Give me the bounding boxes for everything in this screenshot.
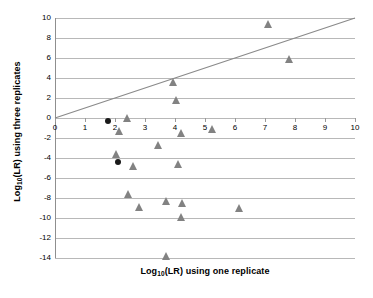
data-point-triangle xyxy=(162,197,170,205)
data-point-triangle xyxy=(235,204,243,212)
data-point-triangle xyxy=(115,127,123,135)
y-axis-title: Log10(LR) using three replicates xyxy=(12,42,25,222)
y-tick-label: -6 xyxy=(44,174,51,182)
y-tick-label: -14 xyxy=(39,254,51,262)
data-point-triangle xyxy=(177,213,185,221)
y-tick-label: 6 xyxy=(47,54,51,62)
data-point-circle xyxy=(105,118,111,124)
y-tick-label: 8 xyxy=(47,34,51,42)
data-point-triangle xyxy=(169,78,177,86)
gridline xyxy=(55,258,355,259)
data-point-triangle xyxy=(129,162,137,170)
y-tick-label: 2 xyxy=(47,94,51,102)
data-point-triangle xyxy=(112,150,120,158)
y-tick-label: 4 xyxy=(47,74,51,82)
y-axis-title-subscript: 10 xyxy=(16,178,23,185)
plot-area: 1086420-2-4-6-8-10-12-14 012345678910 xyxy=(55,18,355,258)
y-tick-label: -4 xyxy=(44,154,51,162)
x-axis-title-post: (LR) using one replicate xyxy=(165,266,270,276)
data-point-triangle xyxy=(174,160,182,168)
y-tick-label: 10 xyxy=(42,14,51,22)
scatter-chart-figure: Log10(LR) using three replicates Log10(L… xyxy=(0,0,373,298)
identity-reference-line xyxy=(55,18,355,258)
data-point-triangle xyxy=(177,129,185,137)
data-point-triangle xyxy=(135,203,143,211)
data-point-triangle xyxy=(162,252,170,260)
y-axis-title-pre: Log xyxy=(12,185,22,202)
x-tick-mark xyxy=(355,118,356,122)
y-tick-label: -12 xyxy=(39,234,51,242)
data-point-triangle xyxy=(172,96,180,104)
x-axis-title-subscript: 10 xyxy=(157,270,164,277)
x-axis-title-pre: Log xyxy=(140,266,157,276)
data-point-circle xyxy=(115,159,121,165)
x-axis-title: Log10(LR) using one replicate xyxy=(55,266,355,277)
y-tick-label: -10 xyxy=(39,214,51,222)
data-point-triangle xyxy=(124,190,132,198)
data-point-triangle xyxy=(208,125,216,133)
y-tick-label: -8 xyxy=(44,194,51,202)
y-axis-title-post: (LR) using three replicates xyxy=(12,61,22,177)
data-point-triangle xyxy=(264,20,272,28)
data-point-triangle xyxy=(178,199,186,207)
data-point-triangle xyxy=(154,141,162,149)
y-tick-label: 0 xyxy=(47,114,51,122)
data-point-triangle xyxy=(123,114,131,122)
y-tick-label: -2 xyxy=(44,134,51,142)
data-point-triangle xyxy=(285,55,293,63)
